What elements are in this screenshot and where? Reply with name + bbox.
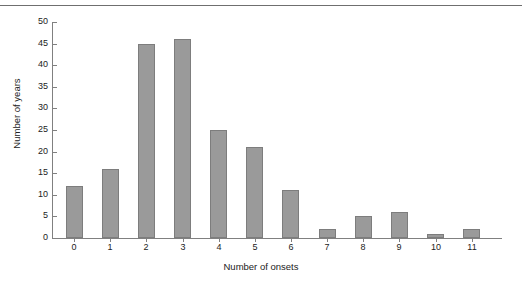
bar [66,186,83,238]
bar [391,212,408,238]
x-axis-tick-label: 0 [59,243,89,252]
x-axis-tick-label: 8 [348,243,378,252]
bar [355,216,372,238]
x-axis-tick-label: 3 [168,243,198,252]
y-axis-tick [53,44,57,45]
bar [210,130,227,238]
x-axis-tick-label: 9 [384,243,414,252]
y-axis-tick [53,238,57,239]
x-axis-tick-label: 1 [95,243,125,252]
figure: 05101520253035404550 01234567891011 Numb… [0,0,522,284]
y-axis-tick [53,130,57,131]
y-axis-tick [53,87,57,88]
x-axis-tick-label: 2 [131,243,161,252]
y-axis-tick [53,173,57,174]
y-axis-tick-label: 0 [8,233,48,242]
y-axis-tick-label: 5 [8,211,48,220]
y-axis-tick [53,195,57,196]
x-axis-tick-label: 5 [240,243,270,252]
bar [102,169,119,238]
x-axis-line [52,238,502,239]
y-axis-tick [53,22,57,23]
bar [282,190,299,238]
bar [138,44,155,238]
y-axis-tick-label: 45 [8,39,48,48]
y-axis-tick-label: 10 [8,190,48,199]
x-axis-tick-label: 4 [204,243,234,252]
x-axis-tick-label: 10 [421,243,451,252]
bar [427,234,444,238]
y-axis-title: Number of years [11,54,22,174]
y-axis-tick [53,108,57,109]
bar [174,39,191,238]
bar [246,147,263,238]
y-axis-tick [53,65,57,66]
x-axis-tick-label: 11 [457,243,487,252]
x-axis-tick-label: 6 [276,243,306,252]
x-axis-title: Number of onsets [0,261,522,272]
y-axis-tick [53,152,57,153]
bar [463,229,480,238]
y-axis-tick [53,216,57,217]
bar [319,229,336,238]
y-axis-tick-label: 50 [8,17,48,26]
x-axis-tick-label: 7 [312,243,342,252]
bar-chart-plot-area: 05101520253035404550 01234567891011 [0,0,522,284]
